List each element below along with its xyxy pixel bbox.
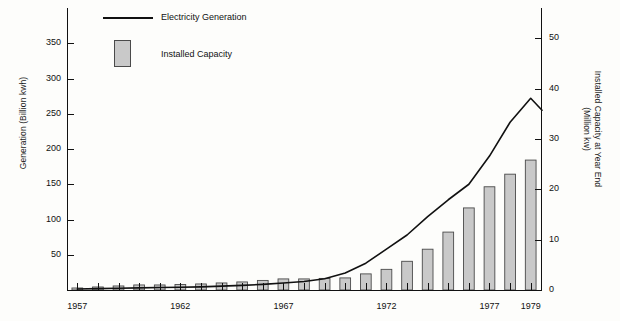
y-axis-left-tick bbox=[68, 79, 74, 80]
x-axis-tick-label: 1967 bbox=[263, 301, 303, 311]
legend-label-installed-capacity: Installed Capacity bbox=[161, 49, 232, 59]
x-axis-tick-label: 1977 bbox=[469, 301, 509, 311]
y-axis-right-tick bbox=[535, 290, 541, 291]
y-axis-right-tick bbox=[535, 38, 541, 39]
y-axis-left-tick bbox=[68, 43, 74, 44]
y-axis-left-tick bbox=[68, 184, 74, 185]
x-axis-tick bbox=[345, 283, 346, 290]
x-axis-tick bbox=[160, 283, 161, 290]
bar bbox=[464, 208, 475, 290]
x-axis-tick bbox=[510, 283, 511, 290]
x-axis-tick bbox=[180, 283, 181, 290]
y-axis-left-tick bbox=[68, 220, 74, 221]
x-axis-tick-label: 1972 bbox=[366, 301, 406, 311]
y-axis-left-tick-label: 150 bbox=[23, 178, 61, 188]
x-axis-tick bbox=[222, 283, 223, 290]
y-axis-right-tick-label: 0 bbox=[549, 284, 573, 294]
legend-swatch-marker bbox=[114, 40, 131, 67]
y-axis-right-tick-label: 50 bbox=[549, 32, 573, 42]
x-axis-line bbox=[67, 290, 542, 291]
y-axis-right-tick-label: 30 bbox=[549, 133, 573, 143]
y-axis-right-line bbox=[541, 8, 542, 291]
x-axis-tick bbox=[407, 283, 408, 290]
legend-line-marker bbox=[103, 17, 153, 19]
x-axis-tick bbox=[469, 283, 470, 290]
y-axis-right-tick-label: 10 bbox=[549, 234, 573, 244]
legend-label-electricity-generation: Electricity Generation bbox=[161, 12, 247, 22]
bar bbox=[505, 174, 516, 290]
y-axis-left-tick-label: 50 bbox=[23, 249, 61, 259]
x-axis-tick bbox=[98, 283, 99, 290]
bar bbox=[484, 187, 495, 290]
x-axis-tick bbox=[283, 283, 284, 290]
y-axis-right-tick-label: 20 bbox=[549, 183, 573, 193]
y-axis-right-tick-label: 40 bbox=[549, 83, 573, 93]
y-axis-left-tick bbox=[68, 114, 74, 115]
x-axis-tick bbox=[119, 283, 120, 290]
y-axis-right-tick bbox=[535, 139, 541, 140]
y-axis-right-tick bbox=[535, 240, 541, 241]
y-axis-left-tick-label: 300 bbox=[23, 73, 61, 83]
y-axis-left-tick bbox=[68, 149, 74, 150]
y-axis-left-tick-label: 200 bbox=[23, 143, 61, 153]
x-axis-tick bbox=[366, 283, 367, 290]
x-axis-tick bbox=[304, 283, 305, 290]
y-axis-right-tick bbox=[535, 189, 541, 190]
x-axis-tick bbox=[325, 283, 326, 290]
x-axis-tick-label: 1957 bbox=[57, 301, 97, 311]
x-axis-tick bbox=[242, 283, 243, 290]
x-axis-tick bbox=[263, 283, 264, 290]
plot-area bbox=[0, 0, 620, 321]
x-axis-tick bbox=[386, 283, 387, 290]
y-axis-left-tick-label: 100 bbox=[23, 214, 61, 224]
bar bbox=[443, 232, 454, 290]
x-axis-tick bbox=[531, 283, 532, 290]
bar bbox=[525, 160, 536, 290]
x-axis-tick bbox=[448, 283, 449, 290]
x-axis-tick bbox=[489, 283, 490, 290]
x-axis-tick-label: 1962 bbox=[160, 301, 200, 311]
y-axis-left-tick-label: 250 bbox=[23, 108, 61, 118]
y-axis-left-tick bbox=[68, 255, 74, 256]
chart-root: Generation (Billion kwh) Installed Capac… bbox=[0, 0, 620, 321]
x-axis-tick bbox=[201, 283, 202, 290]
x-axis-tick bbox=[77, 283, 78, 290]
y-axis-left-tick-label: 350 bbox=[23, 37, 61, 47]
x-axis-tick bbox=[428, 283, 429, 290]
x-axis-tick-label: 1979 bbox=[511, 301, 551, 311]
y-axis-right-tick bbox=[535, 89, 541, 90]
x-axis-tick bbox=[139, 283, 140, 290]
